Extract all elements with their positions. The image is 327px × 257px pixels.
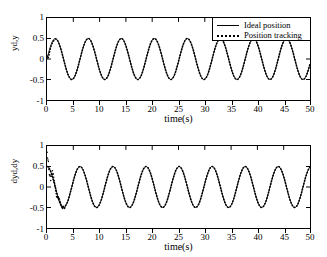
speed-y-tick-labels: 1 0.5 0 -0.5 -1 xyxy=(10,145,44,229)
position-y-ticks xyxy=(47,39,310,80)
speed-tracking-curve xyxy=(47,167,310,209)
speed-plot-svg xyxy=(47,146,310,228)
y-tick-label: 0 xyxy=(16,55,44,64)
speed-subplot: dyd,dy 1 0.5 0 -0.5 -1 xyxy=(0,128,327,257)
dotted-line-sample-icon xyxy=(216,31,240,40)
speed-x-ticks-top xyxy=(73,146,283,150)
legend-label: Position tracking xyxy=(244,30,302,40)
position-y-tick-labels: 1 0.5 0 -0.5 -1 xyxy=(10,17,44,101)
legend-entry-position-tracking: Position tracking xyxy=(216,30,307,40)
speed-plot-area xyxy=(46,145,311,229)
position-subplot: yd,y 1 0.5 0 -0.5 -1 xyxy=(0,0,327,128)
solid-line-sample-icon xyxy=(216,21,240,30)
y-tick-label: 0.5 xyxy=(16,162,44,171)
y-tick-label: 0 xyxy=(16,183,44,192)
position-x-axis-label: time(s) xyxy=(46,113,311,124)
y-tick-label: -0.5 xyxy=(16,204,44,213)
y-tick-label: -0.5 xyxy=(16,76,44,85)
y-tick-label: 1 xyxy=(16,13,44,22)
legend-entry-ideal-position: Ideal position xyxy=(216,20,307,30)
speed-x-axis-label: time(s) xyxy=(46,241,311,252)
position-legend: Ideal position Position tracking xyxy=(212,17,311,41)
ideal-position-curve xyxy=(47,39,310,80)
y-tick-label: 1 xyxy=(16,141,44,150)
figure-canvas: yd,y 1 0.5 0 -0.5 -1 xyxy=(0,0,327,257)
position-tracking-curve xyxy=(47,39,310,80)
speed-transient-points xyxy=(47,151,63,209)
y-tick-label: 0.5 xyxy=(16,34,44,43)
legend-label: Ideal position xyxy=(244,20,291,30)
